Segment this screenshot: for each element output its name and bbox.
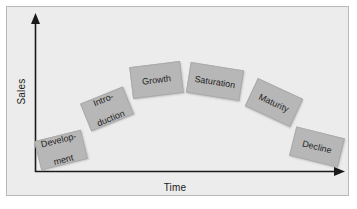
stage-box-growth: Growth xyxy=(129,61,184,99)
x-axis-arrowhead xyxy=(334,167,345,176)
stage-label-growth: Growth xyxy=(139,73,173,87)
stage-label-maturity: Maturity xyxy=(256,90,293,114)
product-life-cycle-figure: Sales Time Develop- ment Intro- duction … xyxy=(0,0,357,209)
y-axis-label: Sales xyxy=(16,69,27,115)
x-axis-label: Time xyxy=(150,182,200,193)
y-axis-arrowhead xyxy=(31,13,40,24)
stage-label-decline: Decline xyxy=(299,138,334,156)
stage-label-saturation: Saturation xyxy=(192,73,238,90)
chart-axes xyxy=(0,0,357,209)
